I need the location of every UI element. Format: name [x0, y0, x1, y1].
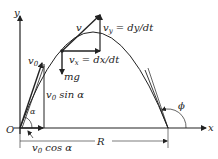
mg-label: mg	[64, 71, 80, 82]
vx-label: vx = dx/dt	[69, 54, 120, 67]
v0-vector-2	[22, 66, 44, 128]
v0sin-label: v0 sin α	[46, 89, 84, 102]
x-axis-label: x	[208, 122, 214, 133]
v0-label: v0	[28, 55, 39, 68]
v0cos-pointer	[28, 131, 33, 138]
range-label: R	[96, 136, 105, 147]
v-label: v	[76, 22, 82, 33]
landing-tangent-line	[145, 70, 168, 128]
y-axis-label: y	[13, 7, 20, 18]
phi-label: ϕ	[178, 100, 185, 111]
projectile-diagram: y x O v vy = dy/dt vx = dx/dt mg v0 v0 s…	[0, 0, 218, 159]
alpha-angle-arc	[25, 117, 32, 128]
landing-tangent-line-2	[148, 68, 168, 128]
v0-vector	[20, 63, 42, 128]
vy-label: vy = dy/dt	[103, 22, 154, 35]
origin-label: O	[6, 124, 14, 135]
phi-angle-arc	[162, 109, 186, 128]
v0cos-label: v0 cos α	[32, 142, 72, 155]
alpha-label: α	[30, 107, 36, 116]
trajectory-curve	[20, 32, 168, 128]
v-vector	[62, 15, 100, 51]
